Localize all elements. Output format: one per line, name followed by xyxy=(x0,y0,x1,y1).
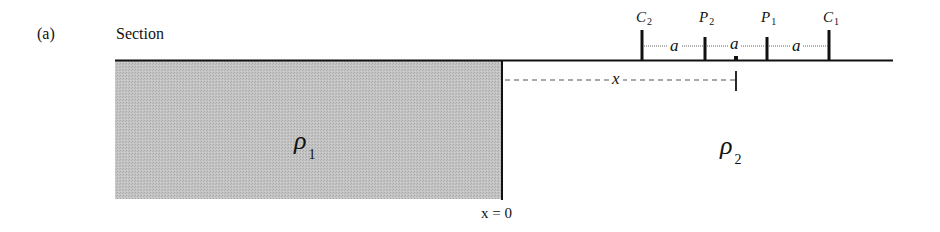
spacing-label-1: a xyxy=(668,37,681,54)
electrode-label-p1: P1 xyxy=(761,10,776,27)
array-midpoint-marker xyxy=(734,56,738,60)
distance-x-label: x xyxy=(609,70,623,87)
electrode-label-p2: P2 xyxy=(699,10,714,27)
electrode-label-c1: C1 xyxy=(823,10,839,27)
spacing-label-3: a xyxy=(790,37,803,54)
origin-label: x = 0 xyxy=(481,206,512,221)
section-title: Section xyxy=(116,26,164,42)
medium-1-label: ρ1 xyxy=(294,128,315,162)
spacing-label-2: a xyxy=(728,35,741,52)
panel-label: (a) xyxy=(37,26,55,42)
electrode-label-c2: C2 xyxy=(636,10,652,27)
medium-2-label: ρ2 xyxy=(720,133,741,167)
